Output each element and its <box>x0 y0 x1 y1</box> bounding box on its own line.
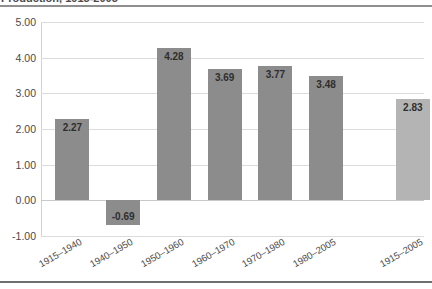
x-axis-tick-label: 1915–2005 <box>374 236 425 272</box>
y-axis-tick-label: 0.00 <box>0 195 36 205</box>
y-axis-tick-label: 4.00 <box>0 53 36 63</box>
bottom-divider <box>0 281 432 283</box>
x-axis-tick-label: 1950–1960 <box>135 236 186 272</box>
y-axis-tick-label: -1.00 <box>0 231 36 241</box>
bar <box>396 99 430 200</box>
y-axis-labels: 5.004.003.002.001.000.00-1.00 <box>0 22 36 236</box>
x-axis-tick-label: 1940–1950 <box>84 236 135 272</box>
bar <box>208 69 242 201</box>
x-axis-tick-label: 1980–2005 <box>287 236 338 272</box>
x-axis-tick-label: 1970–1980 <box>236 236 287 272</box>
bar-value-label: 2.27 <box>55 122 89 133</box>
x-axis-tick-label: 1960–1970 <box>186 236 237 272</box>
bar <box>157 48 191 201</box>
bar-value-label: -0.69 <box>106 211 140 222</box>
bar-value-label: 3.77 <box>258 69 292 80</box>
plot-area: 2.27-0.694.283.693.773.482.83 <box>41 22 424 236</box>
bar <box>309 76 343 200</box>
bar-value-label: 3.69 <box>208 72 242 83</box>
y-axis-tick-label: 2.00 <box>0 124 36 134</box>
bar <box>258 66 292 200</box>
bar-value-label: 3.48 <box>309 79 343 90</box>
bar-series: 2.27-0.694.283.693.773.482.83 <box>41 22 424 236</box>
bar-value-label: 2.83 <box>396 102 430 113</box>
y-axis-tick-label: 1.00 <box>0 160 36 170</box>
x-axis-tick-label: 1915–1940 <box>33 236 84 272</box>
title-divider <box>0 5 432 7</box>
y-axis-tick-label: 5.00 <box>0 17 36 27</box>
bar-value-label: 4.28 <box>157 51 191 62</box>
chart-figure: Production, 1915-2005 5.004.003.002.001.… <box>0 0 432 289</box>
x-axis-labels: 1915–19401940–19501950–19601960–19701970… <box>41 236 424 284</box>
y-axis-tick-label: 3.00 <box>0 88 36 98</box>
